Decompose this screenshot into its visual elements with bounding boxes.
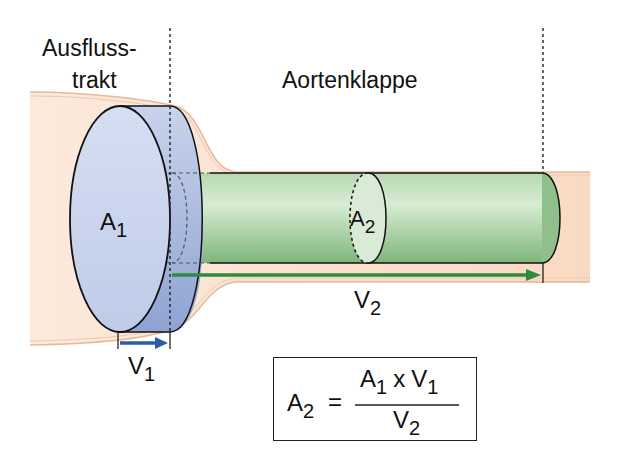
formula-numerator: A1xV1 — [360, 365, 438, 398]
formula-denominator: V2 — [393, 406, 420, 439]
continuity-formula: A2 = A1xV1 V2 — [0, 0, 617, 467]
formula-equals: = — [328, 388, 342, 415]
formula-lhs: A2 — [287, 389, 314, 422]
